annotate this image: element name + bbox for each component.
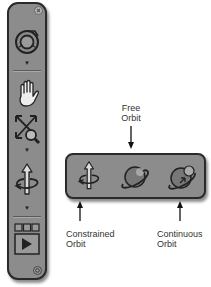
steering-wheel-icon bbox=[13, 28, 41, 56]
free-orbit-label-line1: Free bbox=[117, 103, 145, 113]
free-orbit-label: Free Orbit bbox=[117, 103, 145, 123]
continuous-orbit-button[interactable] bbox=[165, 160, 199, 194]
zoom-button[interactable] bbox=[9, 112, 45, 146]
continuous-orbit-icon bbox=[166, 161, 198, 193]
free-orbit-icon bbox=[119, 161, 151, 193]
close-icon bbox=[35, 7, 42, 14]
options-button[interactable] bbox=[33, 266, 42, 275]
divider bbox=[13, 216, 41, 218]
free-orbit-button[interactable] bbox=[118, 160, 152, 194]
showmotion-button[interactable] bbox=[9, 222, 45, 258]
steering-wheel-dropdown[interactable]: ▼ bbox=[9, 60, 45, 66]
zoom-extents-icon bbox=[12, 112, 42, 146]
constrained-orbit-button[interactable] bbox=[72, 160, 106, 194]
constrained-orbit-label-line2: Orbit bbox=[66, 239, 115, 249]
orbit-dropdown[interactable]: ▼ bbox=[9, 205, 45, 211]
orbit-button[interactable] bbox=[9, 162, 45, 200]
navigation-bar: ▼ ▼ ▼ bbox=[7, 2, 47, 280]
continuous-orbit-label-line2: Orbit bbox=[157, 239, 203, 249]
constrained-orbit-icon bbox=[12, 162, 42, 200]
constrained-orbit-arrow bbox=[76, 201, 84, 221]
constrained-orbit-icon bbox=[75, 160, 103, 194]
free-orbit-arrow bbox=[127, 126, 135, 150]
orbit-flyout bbox=[65, 153, 206, 199]
divider bbox=[13, 70, 41, 72]
continuous-orbit-arrow bbox=[176, 201, 184, 221]
close-button[interactable] bbox=[34, 6, 43, 15]
constrained-orbit-label: Constrained Orbit bbox=[66, 229, 115, 249]
continuous-orbit-label-line1: Continuous bbox=[157, 229, 203, 239]
zoom-dropdown[interactable]: ▼ bbox=[9, 147, 45, 153]
hand-icon bbox=[13, 78, 41, 108]
free-orbit-label-line2: Orbit bbox=[117, 113, 145, 123]
pan-button[interactable] bbox=[9, 78, 45, 108]
options-icon bbox=[34, 267, 41, 274]
showmotion-icon bbox=[12, 222, 42, 258]
constrained-orbit-label-line1: Constrained bbox=[66, 229, 115, 239]
continuous-orbit-label: Continuous Orbit bbox=[157, 229, 203, 249]
steering-wheel-button[interactable] bbox=[9, 28, 45, 56]
